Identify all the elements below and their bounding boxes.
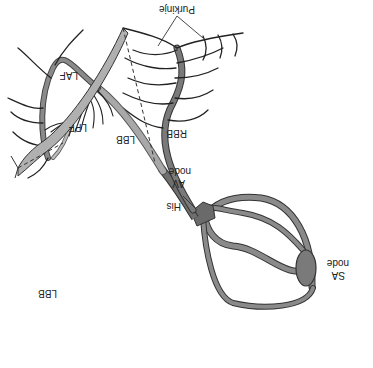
label-lbb-lower: LBB [38,288,57,299]
label-lbb-upper: LBB [116,134,135,145]
internodal-pathways [203,197,313,306]
label-lpf: LPF [69,122,87,133]
label-his: His [167,201,181,212]
label-laf: LAF [60,70,78,81]
conduction-diagram: Purkinje LAF LPF LBB RBB AV node His SA … [0,0,373,368]
label-av-node-1: AV [172,178,185,189]
label-sa-node-2: node [326,258,349,269]
label-sa-node-1: SA [331,270,345,281]
label-purkinje: Purkinje [158,4,195,15]
sa-node [296,250,316,286]
label-rbb: RBB [166,128,187,139]
label-av-node-2: node [168,166,191,177]
